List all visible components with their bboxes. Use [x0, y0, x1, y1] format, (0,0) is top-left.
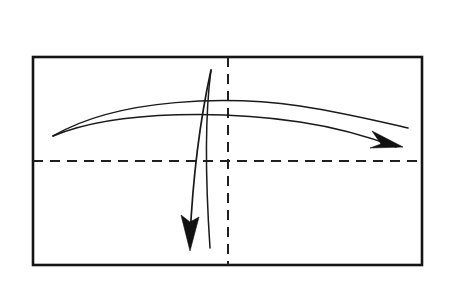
origami-fold-diagram	[0, 0, 452, 285]
diagram-canvas	[0, 0, 452, 285]
